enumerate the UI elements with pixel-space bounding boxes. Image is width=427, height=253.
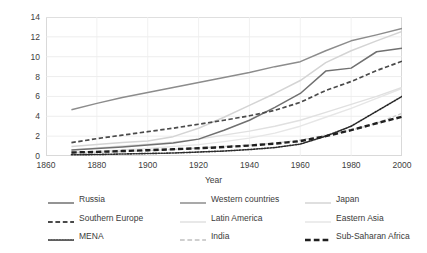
legend-row: MENAIndiaSub-Saharan Africa bbox=[48, 227, 420, 246]
y-tick-label: 8 bbox=[14, 73, 40, 82]
x-tick-label: 1880 bbox=[77, 161, 117, 170]
legend-row: RussiaWestern countriesJapan bbox=[48, 190, 420, 209]
legend-item-mena[interactable]: MENA bbox=[48, 231, 180, 241]
x-tick-label: 2000 bbox=[382, 161, 422, 170]
legend-row: Southern EuropeLatin AmericaEastern Asia bbox=[48, 209, 420, 228]
x-tick-label: 1920 bbox=[179, 161, 219, 170]
legend-label: Eastern Asia bbox=[336, 214, 384, 223]
y-tick-label: 12 bbox=[14, 33, 40, 42]
y-tick-label: 6 bbox=[14, 92, 40, 101]
legend-swatch-icon bbox=[305, 231, 331, 241]
legend-swatch-icon bbox=[48, 194, 74, 204]
x-tick-label: 1980 bbox=[331, 161, 371, 170]
legend-label: MENA bbox=[79, 232, 104, 241]
y-tick-label: 4 bbox=[14, 112, 40, 121]
series-line-western-countries bbox=[71, 28, 402, 109]
legend-label: India bbox=[211, 232, 229, 241]
legend-label: Japan bbox=[336, 195, 359, 204]
legend-item-western-countries[interactable]: Western countries bbox=[180, 194, 305, 204]
y-tick-label: 2 bbox=[14, 132, 40, 141]
chart-legend: RussiaWestern countriesJapanSouthern Eur… bbox=[48, 190, 420, 246]
legend-item-sub-saharan-africa[interactable]: Sub-Saharan Africa bbox=[305, 231, 420, 241]
x-tick-label: 1860 bbox=[26, 161, 66, 170]
legend-label: Latin America bbox=[211, 214, 263, 223]
legend-swatch-icon bbox=[48, 231, 74, 241]
legend-item-southern-europe[interactable]: Southern Europe bbox=[48, 213, 180, 223]
legend-swatch-icon bbox=[180, 231, 206, 241]
legend-label: Russia bbox=[79, 195, 105, 204]
legend-swatch-icon bbox=[48, 213, 74, 223]
x-tick-label: 1960 bbox=[280, 161, 320, 170]
x-tick-label: 1900 bbox=[128, 161, 168, 170]
legend-item-russia[interactable]: Russia bbox=[48, 194, 180, 204]
y-tick-label: 14 bbox=[14, 13, 40, 22]
legend-swatch-icon bbox=[180, 213, 206, 223]
plot-canvas bbox=[46, 17, 402, 156]
legend-label: Southern Europe bbox=[79, 214, 143, 223]
line-chart: Average years of schooling 14121086420 1… bbox=[0, 0, 427, 253]
x-axis-title: Year bbox=[0, 175, 427, 185]
legend-item-eastern-asia[interactable]: Eastern Asia bbox=[305, 213, 420, 223]
legend-item-india[interactable]: India bbox=[180, 231, 305, 241]
legend-label: Western countries bbox=[211, 195, 279, 204]
y-tick-label: 10 bbox=[14, 53, 40, 62]
legend-item-japan[interactable]: Japan bbox=[305, 194, 420, 204]
x-tick-label: 1940 bbox=[229, 161, 269, 170]
legend-item-latin-america[interactable]: Latin America bbox=[180, 213, 305, 223]
legend-label: Sub-Saharan Africa bbox=[336, 232, 410, 241]
legend-swatch-icon bbox=[305, 213, 331, 223]
plot-area bbox=[46, 17, 402, 156]
legend-swatch-icon bbox=[180, 194, 206, 204]
legend-swatch-icon bbox=[305, 194, 331, 204]
